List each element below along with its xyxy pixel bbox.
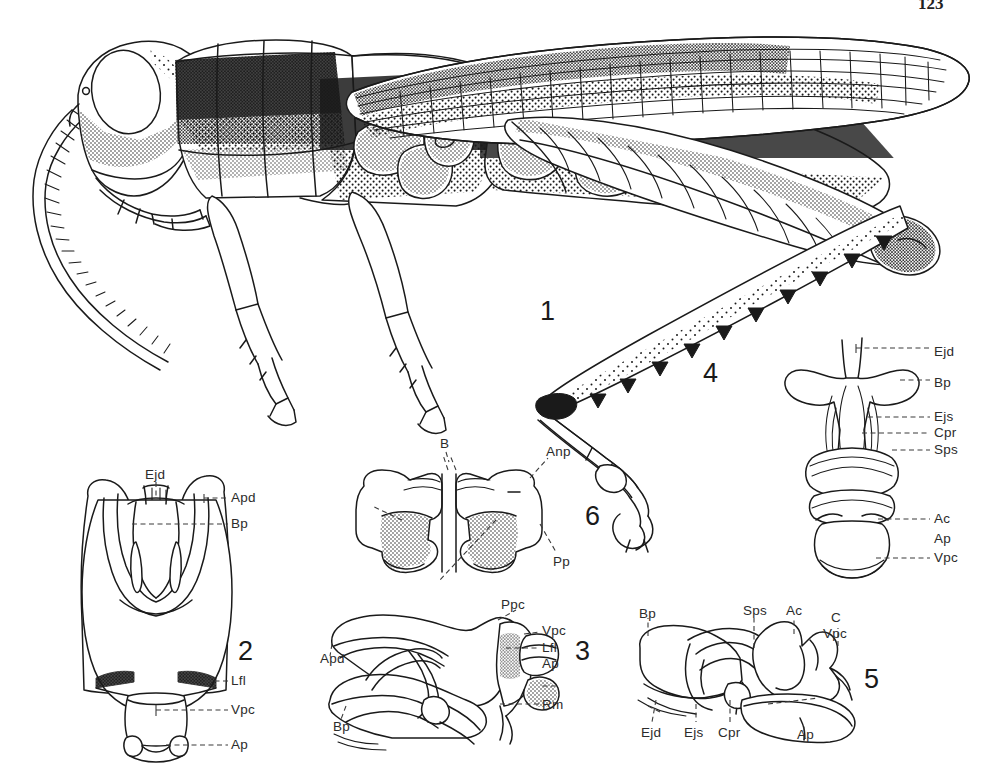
label-ejs-figright: Ejs <box>934 410 953 424</box>
label-anp-fig6: Anp <box>546 445 571 459</box>
label-ejd-fig5: Ejd <box>641 726 661 740</box>
label-ap-fig3: Ap <box>542 657 559 671</box>
figure-number-1: 1 <box>540 298 555 325</box>
label-bp-fig3: Bp <box>333 720 350 734</box>
label-vpc-figright: Vpc <box>934 551 958 565</box>
label-b-fig6: B <box>440 437 449 451</box>
label-rm-fig3: Rm <box>542 698 563 712</box>
mid-leg <box>349 192 446 433</box>
label-bp-fig5: Bp <box>639 607 656 621</box>
forewing <box>346 37 969 144</box>
figure-number-6: 6 <box>585 503 600 530</box>
label-ac-figright: Ac <box>934 512 950 526</box>
illustration-plate: 123 <box>0 0 994 779</box>
label-ac-fig5: Ac <box>786 604 802 618</box>
label-vpc-fig5: Vpc <box>823 627 847 641</box>
label-ap-fig5: Ap <box>797 728 814 742</box>
figure-number-5: 5 <box>864 666 879 693</box>
fore-leg <box>208 196 296 425</box>
label-sps-fig5: Sps <box>743 604 767 618</box>
label-cpr-fig5: Cpr <box>718 726 740 740</box>
label-c-fig5: C <box>831 611 841 625</box>
figure-2-artwork <box>81 476 232 762</box>
label-ap-fig2: Ap <box>231 738 248 752</box>
figure-number-2: 2 <box>238 638 253 665</box>
label-vpc-fig3: Vpc <box>542 624 566 638</box>
figure-right-artwork <box>785 338 919 578</box>
label-cpr-figright: Cpr <box>934 426 956 440</box>
label-lfl-fig3: Lfl <box>542 641 557 655</box>
label-apd-fig2: Apd <box>231 491 256 505</box>
label-pp-fig6: Pp <box>553 555 570 569</box>
label-ap-figright: Ap <box>934 532 951 546</box>
label-sps-figright: Sps <box>934 443 958 457</box>
label-bp-figright: Bp <box>934 376 951 390</box>
plate-artwork <box>0 0 994 779</box>
label-ejd-figright: Ejd <box>934 345 954 359</box>
label-ejd-fig2: Ejd <box>145 468 165 482</box>
label-ejs-fig5: Ejs <box>684 726 703 740</box>
label-ppc-fig3: Ppc <box>501 598 525 612</box>
label-vpc-fig2: Vpc <box>231 703 255 717</box>
figure-6-artwork <box>356 452 556 582</box>
figure-3-artwork <box>329 615 559 750</box>
figure-number-3: 3 <box>575 638 590 665</box>
label-lfl-fig2: Lfl <box>231 674 246 688</box>
label-apd-fig3: Apd <box>320 652 345 666</box>
label-bp-fig2: Bp <box>231 517 248 531</box>
figure-number-4: 4 <box>703 360 718 387</box>
